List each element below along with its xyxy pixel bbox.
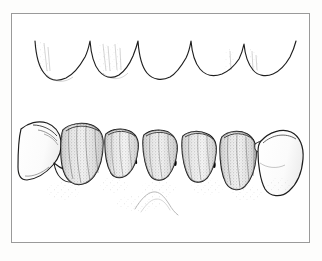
figure-root	[0, 0, 322, 261]
pontic-4	[182, 132, 216, 182]
prosthesis-group	[18, 122, 303, 215]
upper-arch-group	[35, 41, 296, 81]
retainer-crown-5	[220, 132, 256, 190]
left-abutment-tooth	[18, 122, 61, 180]
upper-arch-shading	[35, 41, 258, 74]
upper-gingival-secondary-2	[103, 73, 128, 79]
dental-bridge-illustration	[11, 13, 310, 243]
retainer-crown-1	[61, 124, 103, 185]
pontic-2	[105, 129, 138, 177]
pontic-3	[143, 130, 177, 180]
figure-caption	[11, 251, 310, 261]
